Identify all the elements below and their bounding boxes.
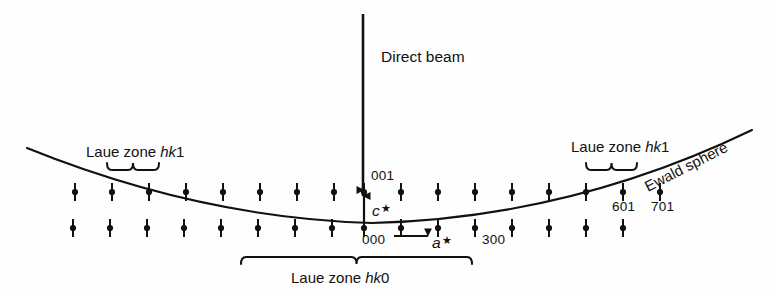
- reflection-label-701: 701: [651, 199, 674, 214]
- reflection-label-000: 000: [362, 232, 385, 247]
- laue-zone-right-label: Laue zone hk1: [571, 138, 669, 155]
- ewald-sphere-diagram: Direct beam Laue zone hk1Laue zone hk1La…: [0, 0, 773, 291]
- diagram-canvas: Direct beam Laue zone hk1Laue zone hk1La…: [0, 0, 773, 291]
- reflection-label-300: 300: [482, 232, 505, 247]
- direct-beam-label: Direct beam: [381, 48, 465, 65]
- reflection-label-001: 001: [371, 168, 394, 183]
- reflection-label-601: 601: [612, 199, 635, 214]
- laue-zone-left-label: Laue zone hk1: [86, 143, 184, 160]
- laue-zone-bottom-label: Laue zone hk0: [291, 269, 389, 286]
